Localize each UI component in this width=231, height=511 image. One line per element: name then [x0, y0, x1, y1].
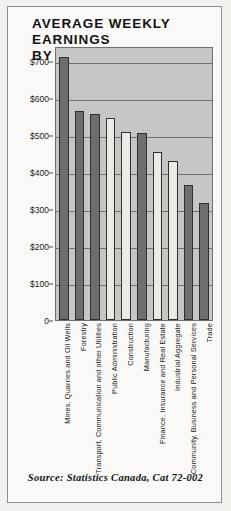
- category-slot: Trade: [197, 323, 213, 473]
- y-axis-tick-mark: [49, 209, 53, 210]
- bar-slot: [56, 48, 72, 320]
- y-axis-tick-label: $500: [30, 131, 49, 141]
- bar: [168, 161, 178, 320]
- bar-slot: [134, 48, 150, 320]
- bar: [199, 203, 209, 320]
- category-slot: Industrial Aggregate: [166, 323, 182, 473]
- bar: [75, 111, 85, 320]
- bar-slot: [196, 48, 212, 320]
- y-axis-tick-mark: [49, 98, 53, 99]
- category-slot: Manufacturing: [134, 323, 150, 473]
- y-axis-tick-label: $200: [30, 242, 49, 252]
- category-slot: Public Administration: [102, 323, 118, 473]
- y-axis-tick-mark: [49, 246, 53, 247]
- plot-area: [55, 47, 213, 321]
- bar-slot: [165, 48, 181, 320]
- category-slot: Finance, Insurance and Real Estate: [150, 323, 166, 473]
- bar: [153, 152, 163, 320]
- bar-slot: [103, 48, 119, 320]
- x-axis-category-labels: Mines, Quarries and Oil WellsForestryTra…: [55, 323, 213, 473]
- y-axis-tick-label: $400: [30, 168, 49, 178]
- bar-series: [56, 48, 212, 320]
- y-axis-tick-mark: [49, 61, 53, 62]
- category-slot: Community, Business and Personal Service…: [181, 323, 197, 473]
- bar: [90, 114, 100, 320]
- y-axis-tick-label: $700: [30, 57, 49, 67]
- y-axis-tick-label: $100: [30, 279, 49, 289]
- y-axis: $700$600$500$400$300$200$1000: [8, 47, 53, 321]
- figure-frame: AVERAGE WEEKLY EARNINGS BY INDUSTRY, 198…: [7, 6, 222, 503]
- category-label: Trade: [205, 323, 214, 343]
- category-slot: Mines, Quarries and Oil Wells: [55, 323, 71, 473]
- bar: [121, 132, 131, 320]
- bar: [106, 118, 116, 320]
- bar-slot: [150, 48, 166, 320]
- y-axis-tick-label: $300: [30, 205, 49, 215]
- bar: [137, 133, 147, 320]
- bar-slot: [87, 48, 103, 320]
- category-slot: Construction: [118, 323, 134, 473]
- category-slot: Transport, Communication and other Utili…: [87, 323, 103, 473]
- bar-slot: [72, 48, 88, 320]
- figure: AVERAGE WEEKLY EARNINGS BY INDUSTRY, 198…: [0, 0, 231, 511]
- bar-slot: [118, 48, 134, 320]
- y-axis-tick-mark: [49, 172, 53, 173]
- source-note: Source: Statistics Canada, Cat 72-002: [0, 472, 231, 483]
- bar: [59, 57, 69, 320]
- y-axis-tick-mark: [49, 283, 53, 284]
- bar-slot: [181, 48, 197, 320]
- y-axis-tick-label: $600: [30, 94, 49, 104]
- category-slot: Forestry: [71, 323, 87, 473]
- y-axis-tick-mark: [49, 135, 53, 136]
- y-axis-tick-mark: [49, 321, 53, 322]
- bar: [184, 185, 194, 320]
